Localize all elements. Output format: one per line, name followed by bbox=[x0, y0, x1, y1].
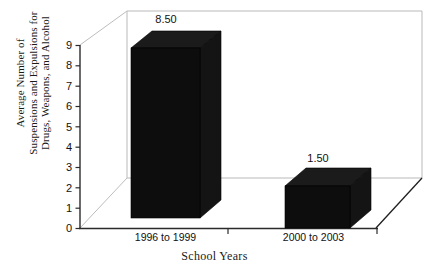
bar-1996-to-1999-front bbox=[131, 48, 200, 218]
data-label-1996-to-1999: 8.50 bbox=[131, 13, 201, 25]
bar-1996-to-1999-side bbox=[200, 31, 221, 218]
y-tick-label-9: 9 bbox=[54, 40, 72, 51]
floor-left-diagonal bbox=[80, 178, 127, 228]
y-tick-label-0: 0 bbox=[54, 223, 72, 234]
y-tick-label-7: 7 bbox=[54, 81, 72, 92]
y-tick-label-6: 6 bbox=[54, 101, 72, 112]
bar-2000-to-2003 bbox=[285, 168, 371, 228]
bar-chart: Average Number of Suspensions and Expuls… bbox=[0, 0, 429, 272]
y-tick-label-1: 1 bbox=[54, 203, 72, 214]
x-tick-label-2000-to-2003: 2000 to 2003 bbox=[256, 231, 371, 243]
data-label-2000-to-2003: 1.50 bbox=[285, 152, 351, 164]
y-tick-label-2: 2 bbox=[54, 183, 72, 194]
y-tick-label-4: 4 bbox=[54, 142, 72, 153]
y-axis-title-line-1: Average Number of bbox=[14, 39, 27, 128]
bar-1996-to-1999 bbox=[131, 31, 221, 218]
bar-2000-to-2003-front bbox=[285, 186, 350, 228]
y-axis-title-line-2: Suspensions and Expulsions for bbox=[27, 11, 40, 154]
floor-right-diagonal bbox=[376, 178, 422, 228]
y-tick-label-5: 5 bbox=[54, 122, 72, 133]
wall-top-left-diagonal bbox=[80, 11, 127, 45]
x-tick-label-1996-to-1999: 1996 to 1999 bbox=[108, 231, 223, 243]
y-axis-title-line-3: Drugs, Weapons, and Alcohol bbox=[39, 16, 52, 150]
x-axis-title: School Years bbox=[0, 249, 429, 264]
y-tick-label-8: 8 bbox=[54, 60, 72, 71]
y-tick-label-3: 3 bbox=[54, 162, 72, 173]
